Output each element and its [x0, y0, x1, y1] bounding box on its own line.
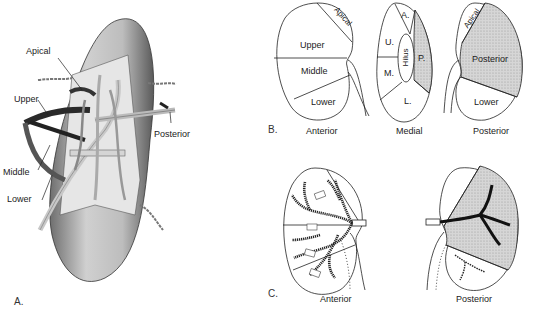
view-title-anterior: Anterior: [306, 126, 338, 136]
label-middle: Middle: [3, 167, 30, 177]
label-apical: Apical: [26, 46, 51, 56]
seg-anterior-upper: Upper: [300, 40, 325, 50]
panel-c-anterior-diagram: [283, 168, 366, 294]
seg-anterior-lower: Lower: [311, 97, 336, 107]
label-hilus: Hilus: [401, 49, 410, 67]
seg-medial-m: M.: [384, 68, 394, 78]
panel-letter-c: C.: [268, 288, 278, 299]
label-posterior: Posterior: [154, 129, 190, 139]
seg-medial-l: L.: [404, 96, 412, 106]
panel-letter-b: B.: [268, 124, 277, 135]
seg-medial-u: U.: [385, 37, 394, 47]
seg-posterior-lower: Lower: [474, 97, 499, 107]
view-title-c-anterior: Anterior: [320, 294, 352, 304]
seg-anterior-middle: Middle: [301, 66, 328, 76]
view-title-posterior: Posterior: [473, 126, 509, 136]
panel-a-kidney-illustration: [25, 19, 176, 282]
view-title-c-posterior: Posterior: [456, 294, 492, 304]
seg-posterior-posterior: Posterior: [472, 54, 508, 64]
label-lower: Lower: [7, 194, 32, 204]
seg-medial-p: P.: [418, 53, 425, 63]
label-upper: Upper: [14, 94, 39, 104]
view-title-medial: Medial: [396, 126, 423, 136]
figure-canvas: [0, 0, 533, 318]
seg-medial-a: A.: [401, 10, 410, 20]
panel-c-posterior-diagram: [426, 166, 518, 290]
panel-letter-a: A.: [14, 296, 23, 307]
